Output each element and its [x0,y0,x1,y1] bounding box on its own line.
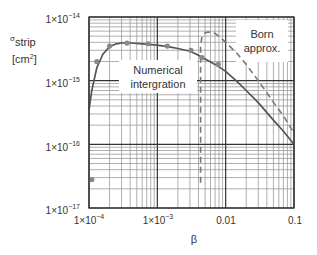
born-label-line2: approx. [244,42,281,54]
y-axis-label: σstrip [cm2] [10,34,37,65]
born-label-box [236,20,288,62]
svg-text:σstrip: σstrip [10,34,36,48]
data-point [188,48,193,53]
numerical-label-line2: intergration [130,78,185,90]
svg-text:1×10−3: 1×10−3 [143,213,174,226]
y-tick-label: 1×10−14 [46,12,81,25]
data-point [107,43,112,48]
data-point [89,177,94,182]
x-tick-label: 1×10−4 [74,213,105,226]
y-tick-label: 1×10−15 [46,76,81,89]
data-point [216,62,221,67]
data-point [145,41,150,46]
x-tick-label: 0.1 [288,215,302,226]
chart-canvas: Numerical intergration Born approx. 1×10… [0,0,317,255]
data-point [165,43,170,48]
x-axis-label: β [191,233,197,245]
data-point [94,59,99,64]
x-tick-label: 1×10−3 [143,213,174,226]
data-point [124,40,129,45]
svg-text:[cm2]: [cm2] [12,53,37,65]
svg-text:1×10−16: 1×10−16 [46,140,81,153]
born-label-line1: Born [250,28,273,40]
numerical-label-line1: Numerical [133,64,183,76]
svg-text:1×10−15: 1×10−15 [46,76,81,89]
data-point [199,55,204,60]
svg-text:1×10−14: 1×10−14 [46,12,81,25]
svg-text:1×10−4: 1×10−4 [74,213,105,226]
x-tick-label: 0.01 [216,215,236,226]
y-tick-label: 1×10−16 [46,140,81,153]
